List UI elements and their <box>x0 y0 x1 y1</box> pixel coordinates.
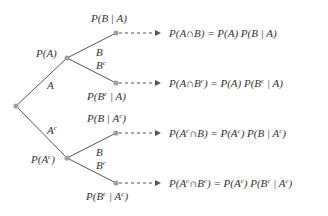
result-Ac-and-Bc: P(Ac∩Bc) = P(Ac) P(Bc | Ac) <box>169 177 292 189</box>
node-Ac <box>64 155 69 160</box>
edge-A-B <box>67 33 116 58</box>
edge-Ac-B <box>67 133 116 158</box>
edge-label-Bc-lower: Bc <box>96 159 106 171</box>
edge-A-Bc <box>67 58 116 83</box>
node-A <box>64 55 69 60</box>
node-Ac-B <box>113 130 118 135</box>
node-root <box>13 103 18 108</box>
edge-Ac-Bc <box>67 158 116 183</box>
prob-label-B-given-A: P(B | A) <box>91 12 127 24</box>
result-Ac-and-B: P(Ac∩B) = P(Ac) P(B | Ac) <box>169 127 286 139</box>
prob-label-Bc-given-Ac: P(Bc | Ac) <box>86 190 128 202</box>
edge-label-Ac: Ac <box>47 124 57 136</box>
edge-label-B-lower: B <box>96 146 103 158</box>
edge-root-A <box>16 58 67 106</box>
prob-label-A: P(A) <box>36 47 57 59</box>
edge-label-B-upper: B <box>96 46 103 58</box>
edge-label-Bc-upper: Bc <box>96 59 106 71</box>
prob-label-Ac: P(Ac) <box>31 153 55 165</box>
prob-label-B-given-Ac: P(B | Ac) <box>87 112 126 124</box>
probability-tree-diagram: P(A) A Ac P(Ac) P(B | A) B Bc P(Bc | A) … <box>0 0 328 216</box>
result-A-and-Bc: P(A∩Bc) = P(A) P(Bc | A) <box>169 77 283 89</box>
node-Ac-Bc <box>113 180 118 185</box>
node-A-B <box>113 30 118 35</box>
edge-label-A: A <box>47 79 54 91</box>
prob-label-Bc-given-A: P(Bc | A) <box>87 90 126 102</box>
node-A-Bc <box>113 80 118 85</box>
edge-root-Ac <box>16 106 67 158</box>
result-A-and-B: P(A∩B) = P(A) P(B | A) <box>169 27 277 39</box>
